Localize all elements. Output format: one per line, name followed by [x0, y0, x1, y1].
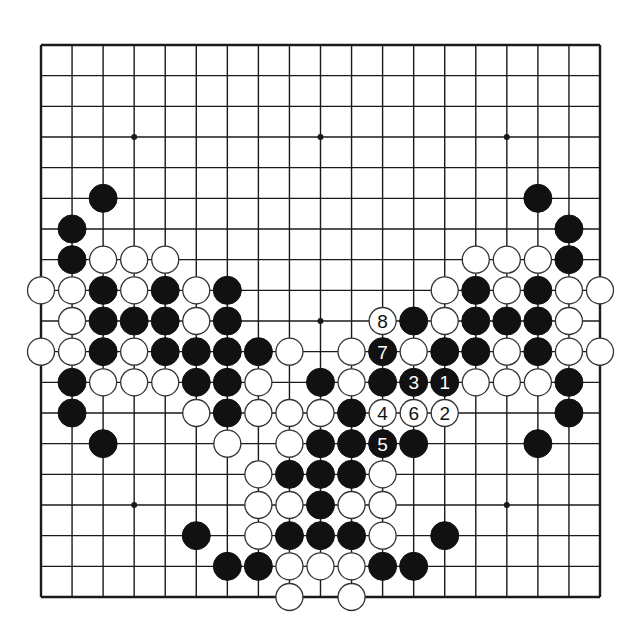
white-stone [524, 369, 551, 396]
white-stone [276, 553, 303, 580]
white-stone [276, 584, 303, 611]
black-stone [58, 246, 86, 274]
white-stone [59, 338, 86, 365]
white-stone [121, 338, 148, 365]
white-stone [152, 369, 179, 396]
black-stone [151, 276, 179, 304]
white-stone [90, 369, 117, 396]
black-stone [213, 399, 241, 427]
black-stone [213, 276, 241, 304]
black-stone [524, 307, 552, 335]
white-stone [338, 338, 365, 365]
white-stone [338, 584, 365, 611]
white-stone [245, 522, 272, 549]
black-stone [462, 338, 490, 366]
black-stone [307, 368, 335, 396]
black-stone [400, 307, 428, 335]
black-stone [369, 368, 397, 396]
black-stone [58, 399, 86, 427]
move-number-label: 4 [377, 403, 388, 424]
go-board-diagram: 12345678 [0, 0, 635, 631]
black-stone [275, 522, 303, 550]
white-stone [369, 522, 396, 549]
star-point [131, 134, 137, 140]
black-stone [151, 307, 179, 335]
white-stone [555, 277, 582, 304]
black-stone [213, 368, 241, 396]
numbered-move-6: 6 [400, 400, 427, 427]
white-stone [152, 246, 179, 273]
white-stone [59, 308, 86, 335]
white-stone [493, 246, 520, 273]
black-stone [555, 215, 583, 243]
white-stone [28, 338, 55, 365]
numbered-move-1: 1 [431, 368, 459, 396]
white-stone [245, 461, 272, 488]
black-stone [89, 276, 117, 304]
white-stone [28, 277, 55, 304]
white-stone [183, 400, 210, 427]
white-stone [121, 369, 148, 396]
black-stone [58, 368, 86, 396]
white-stone [338, 553, 365, 580]
white-stone [183, 277, 210, 304]
star-point [504, 502, 510, 508]
black-stone [493, 307, 521, 335]
black-stone [462, 276, 490, 304]
black-stone [307, 430, 335, 458]
move-number-label: 1 [439, 372, 450, 393]
black-stone [524, 430, 552, 458]
white-stone [555, 308, 582, 335]
black-stone [462, 307, 490, 335]
white-stone [245, 400, 272, 427]
white-stone [276, 400, 303, 427]
move-number-label: 7 [377, 342, 388, 363]
white-stone [307, 400, 334, 427]
black-stone [182, 338, 210, 366]
white-stone [276, 338, 303, 365]
black-stone [182, 368, 210, 396]
move-number-label: 3 [408, 372, 419, 393]
white-stone [183, 308, 210, 335]
white-stone [524, 246, 551, 273]
white-stone [493, 277, 520, 304]
white-stone [338, 369, 365, 396]
black-stone [213, 338, 241, 366]
white-stone [493, 338, 520, 365]
numbered-move-2: 2 [431, 400, 458, 427]
white-stone [400, 338, 427, 365]
black-stone [524, 338, 552, 366]
numbered-move-8: 8 [369, 308, 396, 335]
white-stone [555, 338, 582, 365]
black-stone [555, 368, 583, 396]
black-stone [213, 307, 241, 335]
white-stone [462, 246, 489, 273]
black-stone [338, 460, 366, 488]
black-stone [182, 522, 210, 550]
white-stone [121, 277, 148, 304]
white-stone [307, 553, 334, 580]
white-stone [90, 246, 117, 273]
black-stone [400, 552, 428, 580]
black-stone [275, 460, 303, 488]
white-stone [276, 430, 303, 457]
black-stone [555, 399, 583, 427]
black-stone [400, 430, 428, 458]
numbered-move-3: 3 [400, 368, 428, 396]
move-number-label: 6 [408, 403, 419, 424]
black-stone [89, 184, 117, 212]
white-stone [587, 277, 614, 304]
star-point [318, 134, 324, 140]
black-stone [524, 276, 552, 304]
star-point [504, 134, 510, 140]
black-stone [244, 338, 272, 366]
black-stone [307, 460, 335, 488]
black-stone [89, 307, 117, 335]
white-stone [462, 369, 489, 396]
black-stone [338, 522, 366, 550]
black-stone [307, 491, 335, 519]
black-stone [120, 307, 148, 335]
star-point [318, 318, 324, 324]
white-stone [59, 277, 86, 304]
white-stone [338, 492, 365, 519]
